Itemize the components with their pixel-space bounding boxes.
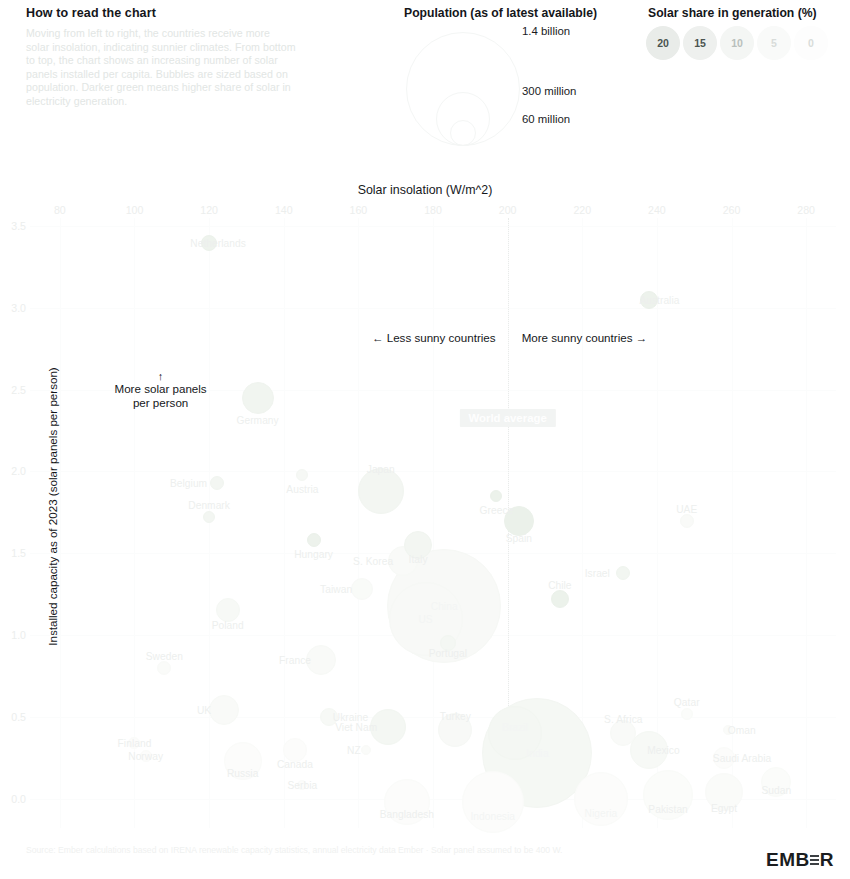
country-label: Denmark [188, 500, 230, 511]
y-axis-tick-label: 2.5 [4, 384, 26, 396]
ember-logo: EMB R [766, 849, 834, 871]
x-axis-tick-label: 100 [126, 204, 144, 216]
country-label: Austria [286, 483, 318, 494]
x-axis-tick-label: 120 [200, 204, 218, 216]
country-label: Australia [639, 294, 679, 305]
solar-share-legend-item: 15 [683, 26, 717, 60]
y-axis-tick-label: 0.0 [4, 793, 26, 805]
country-bubble[interactable] [209, 695, 239, 725]
country-label: Poland [212, 620, 244, 631]
country-label: Qatar [674, 696, 700, 707]
country-label: Chile [548, 580, 571, 591]
country-label: Norway [128, 751, 163, 762]
country-label: UAE [676, 503, 697, 514]
ember-logo-bars-icon [810, 853, 819, 868]
country-bubble[interactable] [680, 514, 694, 528]
population-legend-label: 1.4 billion [522, 25, 570, 37]
country-label: India [526, 747, 548, 758]
country-bubble[interactable] [203, 511, 215, 523]
more-sunny-annotation: More sunny countries → [522, 331, 648, 344]
country-label: Finland [118, 737, 152, 748]
country-label: Oman [728, 724, 756, 735]
x-axis-tick-label: 140 [275, 204, 293, 216]
ember-logo-text: EMB [766, 849, 810, 871]
country-bubble[interactable] [157, 661, 171, 675]
y-axis-tick-label: 1.5 [4, 547, 26, 559]
grid-line-vertical [732, 218, 733, 828]
country-label: China [431, 600, 458, 611]
y-axis-tick-label: 3.5 [4, 220, 26, 232]
country-label: Pakistan [648, 804, 687, 815]
country-label: Netherlands [190, 237, 245, 248]
country-label: UK [197, 705, 211, 716]
population-legend-label: 60 million [522, 113, 570, 125]
country-label: Hungary [294, 549, 333, 560]
country-label: Indonesia [470, 810, 515, 821]
solar-share-legend-title: Solar share in generation (%) [648, 6, 817, 20]
country-bubble[interactable] [216, 598, 240, 622]
x-axis-title: Solar insolation (W/m^2) [0, 183, 850, 197]
country-label: Serbia [288, 780, 318, 791]
country-label: Mexico [647, 744, 680, 755]
country-label: Nigeria [585, 807, 618, 818]
country-bubble[interactable] [307, 533, 321, 547]
solar-share-legend-item: 10 [720, 26, 754, 60]
population-legend-label: 300 million [522, 85, 576, 97]
more-panels-line-1: More solar panels [115, 382, 207, 395]
ember-logo-text-end: R [820, 849, 834, 871]
country-bubble[interactable] [296, 469, 308, 481]
country-label: Saudi Arabia [713, 752, 771, 763]
country-label: Portugal [429, 648, 467, 659]
less-sunny-annotation: ← Less sunny countries [372, 331, 496, 344]
more-panels-annotation: ↑More solar panelsper person [115, 370, 207, 410]
country-bubble[interactable] [351, 578, 373, 600]
country-label: Israel [585, 567, 610, 578]
grid-line-vertical [284, 218, 285, 828]
country-label: S. Korea [353, 556, 393, 567]
population-legend: 1.4 billion300 million60 million [404, 24, 634, 144]
solar-share-legend-value: 20 [646, 26, 680, 60]
x-axis-tick-label: 200 [499, 204, 517, 216]
country-label: Sweden [146, 650, 183, 661]
population-legend-circle [450, 120, 476, 146]
country-bubble[interactable] [681, 708, 693, 720]
country-bubble[interactable] [490, 490, 502, 502]
country-label: Canada [277, 758, 313, 769]
country-label: US [418, 613, 432, 624]
population-legend-title: Population (as of latest available) [404, 6, 597, 20]
grid-line-vertical [806, 218, 807, 828]
chart-page: How to read the chart Moving from left t… [0, 0, 850, 879]
country-label: Germany [236, 414, 278, 425]
solar-share-legend-value: 5 [757, 26, 791, 60]
x-axis-tick-label: 80 [54, 204, 66, 216]
country-label: Egypt [711, 803, 737, 814]
country-bubble[interactable] [210, 476, 224, 490]
country-bubble[interactable] [616, 566, 630, 580]
solar-share-legend-value: 0 [794, 26, 828, 60]
country-label: Italy [409, 554, 428, 565]
x-axis-tick-label: 280 [797, 204, 815, 216]
country-label: Spain [506, 532, 532, 543]
solar-share-legend: 20151050 [646, 26, 846, 66]
x-axis-tick-label: 260 [723, 204, 741, 216]
country-label: Japan [367, 464, 395, 475]
x-axis-tick-label: 180 [424, 204, 442, 216]
how-to-read-title: How to read the chart [26, 6, 156, 20]
country-label: Bangladesh [380, 808, 434, 819]
country-bubble[interactable] [551, 590, 569, 608]
y-axis-tick-label: 0.5 [4, 711, 26, 723]
grid-line-vertical [60, 218, 61, 828]
solar-share-legend-item: 0 [794, 26, 828, 60]
solar-share-legend-value: 10 [720, 26, 754, 60]
how-to-read-body: Moving from left to right, the countries… [26, 27, 296, 109]
solar-share-legend-item: 20 [646, 26, 680, 60]
more-panels-line-2: per person [133, 396, 188, 409]
grid-line-vertical [433, 218, 434, 828]
country-label: Taiwan [320, 584, 352, 595]
country-bubble[interactable] [462, 771, 524, 833]
country-bubble[interactable] [358, 468, 404, 514]
country-bubble[interactable] [361, 745, 371, 755]
country-label: Turkey [440, 710, 471, 721]
y-axis-tick-label: 2.0 [4, 465, 26, 477]
country-bubble[interactable] [242, 382, 274, 414]
